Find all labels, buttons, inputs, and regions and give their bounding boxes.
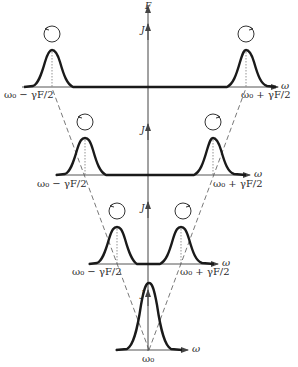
peaks-curve [56, 138, 246, 175]
center-frequency-label: ω₀ [142, 353, 154, 364]
left-frequency-label: ω₀ − γF/2 [72, 266, 122, 277]
level-1: ω ω₀ − γF/2 ω₀ + γF/2 [4, 26, 291, 100]
dashed-envelope-left [52, 88, 149, 350]
left-peak-curve [24, 50, 276, 87]
right-frequency-label: ω₀ + γF/2 [241, 89, 291, 100]
right-frequency-label: ω₀ + γF/2 [213, 178, 263, 189]
level-4: ω ω₀ [115, 283, 200, 364]
arrow-ccw [45, 27, 49, 30]
level-2: ω ω₀ − γF/2 ω₀ + γF/2 [37, 114, 263, 189]
axis-label-F: F [144, 1, 152, 11]
j-label: J [139, 25, 146, 35]
dashed-envelope-right [149, 88, 246, 350]
j-arrow-level-2: J [139, 124, 148, 140]
j-arrow-level-3: J [139, 202, 148, 218]
left-frequency-label: ω₀ − γF/2 [4, 89, 54, 100]
j-label: J [139, 203, 146, 213]
single-peak-curve [116, 283, 182, 350]
j-label: J [139, 125, 146, 135]
right-frequency-label: ω₀ + γF/2 [180, 266, 230, 277]
level-3: ω ω₀ − γF/2 ω₀ + γF/2 [72, 203, 230, 277]
peaks-curve [89, 227, 214, 264]
j-arrow-level-1: J [139, 24, 148, 40]
omega-axis-label: ω [192, 343, 200, 354]
left-frequency-label: ω₀ − γF/2 [37, 178, 87, 189]
splitting-diagram: F J J J J ω ω₀ − γF/2 ω₀ + γF/2 ω [0, 0, 298, 367]
arrow-cw [249, 27, 253, 30]
